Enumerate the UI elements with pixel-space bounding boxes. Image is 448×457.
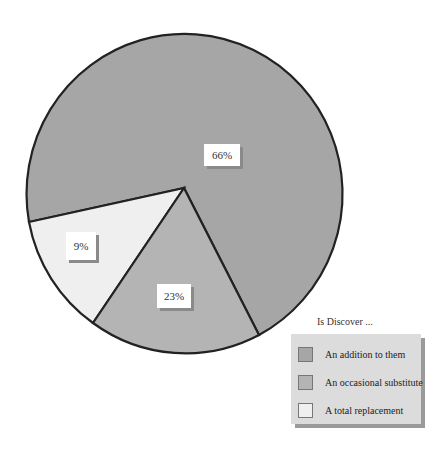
legend-label: A total replacement — [325, 405, 403, 416]
legend-item-addition: An addition to them — [298, 346, 405, 362]
swatch-icon — [298, 347, 313, 362]
label-66: 66% — [204, 144, 240, 166]
legend-label: An addition to them — [325, 349, 405, 360]
legend-title: Is Discover ... — [317, 316, 373, 327]
swatch-icon — [298, 375, 313, 390]
label-9: 9% — [66, 232, 96, 260]
label-23: 23% — [157, 284, 191, 308]
legend: An addition to them An occasional substi… — [291, 334, 421, 424]
legend-item-occasional: An occasional substitute — [298, 374, 423, 390]
legend-item-replacement: A total replacement — [298, 402, 403, 418]
legend-label: An occasional substitute — [325, 377, 423, 388]
swatch-icon — [298, 403, 313, 418]
